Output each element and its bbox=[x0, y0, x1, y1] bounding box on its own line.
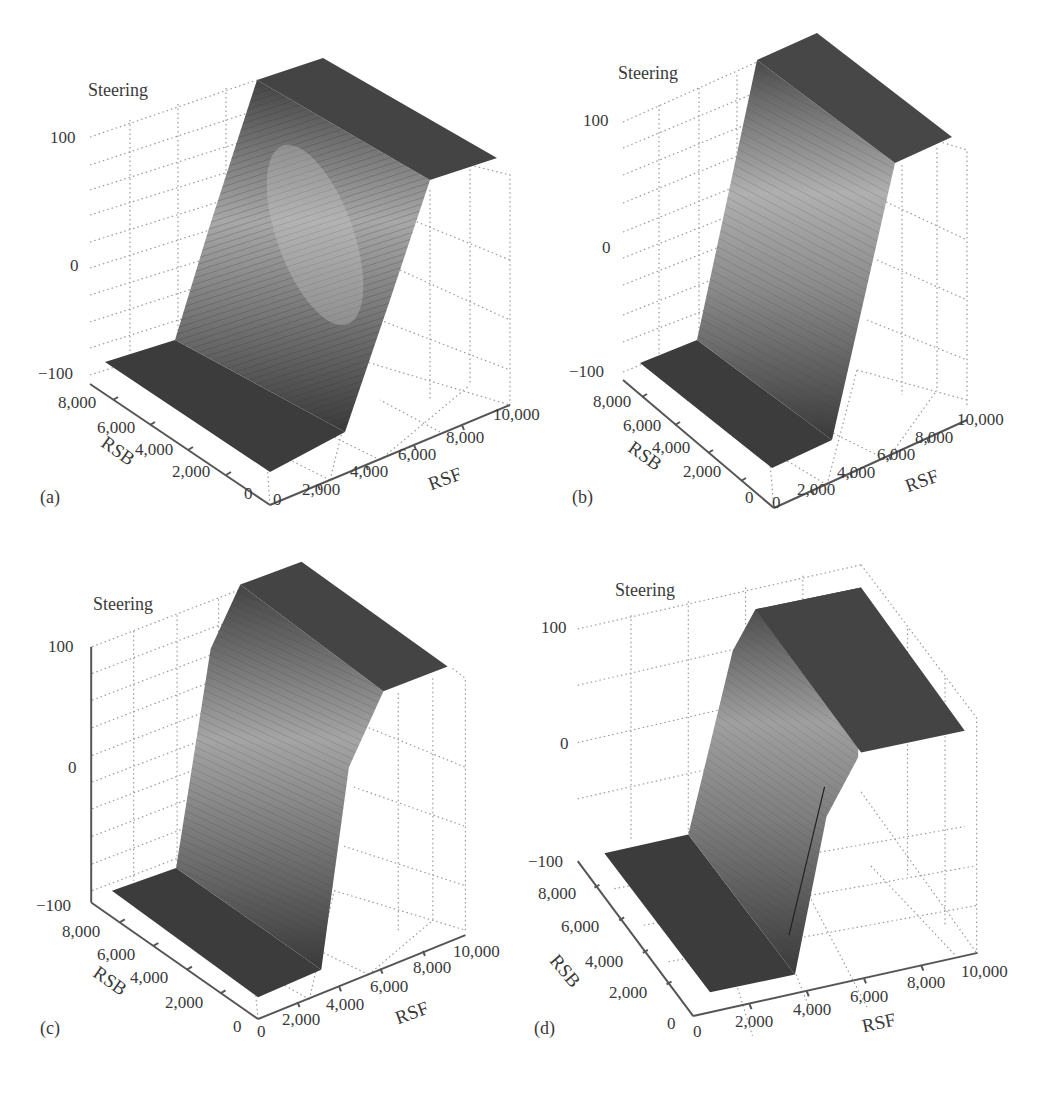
rsb-tick-4000: 4,000 bbox=[585, 952, 623, 972]
rsf-tick-0: 0 bbox=[772, 493, 781, 513]
z-axis-title: Steering bbox=[93, 594, 153, 615]
steering-surface-a bbox=[105, 58, 497, 472]
rsf-tick-10000: 10,000 bbox=[453, 942, 500, 962]
rsb-tick-0: 0 bbox=[244, 484, 253, 504]
z-tick-100: 100 bbox=[541, 618, 567, 638]
rsb-tick-4000: 4,000 bbox=[135, 440, 173, 460]
rsf-tick-2000: 2,000 bbox=[797, 480, 835, 500]
panel-label-a: (a) bbox=[40, 487, 60, 508]
rsf-tick-6000: 6,000 bbox=[877, 445, 915, 465]
rsf-tick-10000: 10,000 bbox=[961, 962, 1008, 982]
rsb-tick-4000: 4,000 bbox=[130, 968, 168, 988]
rsf-tick-4000: 4,000 bbox=[837, 463, 875, 483]
rsf-tick-2000: 2,000 bbox=[302, 480, 340, 500]
rsf-tick-8000: 8,000 bbox=[446, 428, 484, 448]
panel-label-b: (b) bbox=[572, 487, 593, 508]
rsb-tick-2000: 2,000 bbox=[609, 983, 647, 1003]
z-tick-minus100: −100 bbox=[569, 362, 604, 382]
rsb-tick-0: 0 bbox=[745, 488, 754, 508]
steering-surface-c bbox=[112, 562, 448, 997]
rsb-tick-8000: 8,000 bbox=[58, 393, 96, 413]
z-tick-0: 0 bbox=[68, 758, 77, 778]
rsf-tick-0: 0 bbox=[257, 1022, 266, 1042]
z-tick-minus100: −100 bbox=[36, 896, 71, 916]
rsf-tick-6000: 6,000 bbox=[370, 977, 408, 997]
rsf-tick-4000: 4,000 bbox=[350, 462, 388, 482]
rsf-tick-4000: 4,000 bbox=[793, 1000, 831, 1020]
rsf-tick-2000: 2,000 bbox=[282, 1010, 320, 1030]
z-tick-100: 100 bbox=[583, 111, 609, 131]
rsf-tick-8000: 8,000 bbox=[413, 958, 451, 978]
surface-plot-c bbox=[0, 550, 527, 1100]
rsb-tick-6000: 6,000 bbox=[623, 416, 661, 436]
rsb-tick-0: 0 bbox=[233, 1017, 242, 1037]
rsb-tick-6000: 6,000 bbox=[97, 418, 135, 438]
rsf-tick-6000: 6,000 bbox=[850, 987, 888, 1007]
rsb-tick-0: 0 bbox=[667, 1014, 676, 1034]
rsf-tick-8000: 8,000 bbox=[915, 428, 953, 448]
z-axis-title: Steering bbox=[618, 63, 678, 84]
panel-d: Steering 100 0 −100 8,000 6,000 4,000 2,… bbox=[527, 550, 1054, 1100]
z-tick-minus100: −100 bbox=[38, 364, 73, 384]
steering-surface-b bbox=[640, 33, 952, 468]
panel-label-c: (c) bbox=[40, 1018, 60, 1039]
z-tick-0: 0 bbox=[602, 238, 611, 258]
z-tick-0: 0 bbox=[560, 734, 569, 754]
rsf-tick-10000: 10,000 bbox=[957, 410, 1004, 430]
rsf-tick-0: 0 bbox=[273, 490, 282, 510]
panel-b: Steering 100 0 −100 8,000 6,000 4,000 2,… bbox=[527, 0, 1054, 550]
rsb-tick-2000: 2,000 bbox=[683, 462, 721, 482]
surface-plot-b bbox=[527, 0, 1054, 550]
steering-surface-d bbox=[604, 588, 964, 993]
rsf-tick-8000: 8,000 bbox=[907, 973, 945, 993]
z-tick-100: 100 bbox=[48, 637, 74, 657]
surface-plot-d bbox=[527, 550, 1054, 1100]
z-tick-100: 100 bbox=[50, 128, 76, 148]
rsb-tick-8000: 8,000 bbox=[62, 922, 100, 942]
rsf-tick-2000: 2,000 bbox=[735, 1012, 773, 1032]
panel-a: Steering 100 0 −100 8,000 6,000 4,000 2,… bbox=[0, 0, 527, 550]
z-axis-title: Steering bbox=[615, 580, 675, 601]
z-tick-0: 0 bbox=[70, 256, 79, 276]
rsb-tick-2000: 2,000 bbox=[165, 993, 203, 1013]
rsf-tick-0: 0 bbox=[693, 1022, 702, 1042]
rsb-tick-6000: 6,000 bbox=[561, 917, 599, 937]
rsf-tick-6000: 6,000 bbox=[398, 445, 436, 465]
rsb-tick-8000: 8,000 bbox=[593, 392, 631, 412]
panel-c: Steering 100 0 −100 8,000 6,000 4,000 2,… bbox=[0, 550, 527, 1100]
z-tick-minus100: −100 bbox=[528, 852, 563, 872]
z-axis-title: Steering bbox=[88, 80, 148, 101]
rsf-tick-4000: 4,000 bbox=[326, 995, 364, 1015]
rsb-tick-8000: 8,000 bbox=[538, 884, 576, 904]
rsb-tick-2000: 2,000 bbox=[172, 462, 210, 482]
panel-label-d: (d) bbox=[534, 1018, 555, 1039]
